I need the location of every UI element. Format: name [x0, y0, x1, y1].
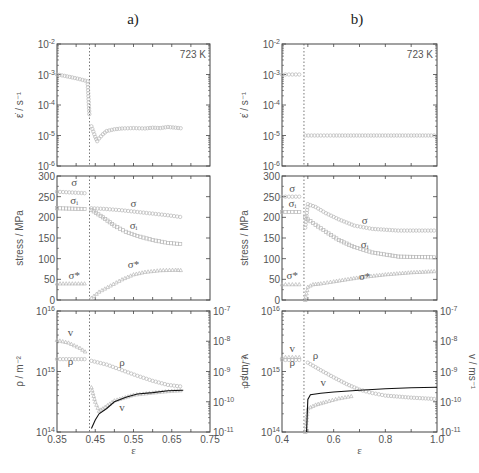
curve-label: ρ — [68, 355, 74, 367]
curve-label: v — [68, 326, 74, 338]
tick-label: 200 — [38, 212, 55, 223]
tick-label: 10-4 — [263, 99, 280, 111]
y-axis-label: stress / MPa — [239, 210, 250, 266]
tick-label: 10-8 — [213, 335, 230, 347]
figure: a)10-610-510-410-310-2ε̇ / s⁻¹723 K05010… — [0, 0, 479, 473]
curve-label: ρ — [313, 349, 319, 361]
tick-label: 0.8 — [378, 434, 392, 445]
tick-label: 0.6 — [327, 434, 341, 445]
plot-frame — [57, 44, 210, 166]
series-v-line- — [307, 387, 437, 432]
tick-label: 1016 — [36, 305, 55, 317]
tick-label: 10-3 — [38, 69, 55, 81]
subplot-strain-rate: 10-610-510-410-310-2ε̇ / s⁻¹723 K — [239, 38, 437, 172]
y-axis-label: ε̇ / s⁻¹ — [14, 91, 25, 118]
tick-label: 1.0 — [430, 434, 444, 445]
tick-label: 10-3 — [263, 69, 280, 81]
tick-label: 250 — [38, 192, 55, 203]
y-axis-label: ε̇ / s⁻¹ — [239, 91, 250, 118]
curve-label: v — [119, 401, 125, 413]
curve-label: σᵢ — [361, 238, 369, 250]
x-axis-label: ε — [357, 444, 362, 456]
curve-label: ρ — [290, 356, 296, 368]
curve-label: σ* — [68, 269, 79, 281]
y-axis-label: ρ / m⁻² — [239, 355, 250, 386]
tick-label: 250 — [263, 192, 280, 203]
subplot-density-velocity: 10141015101610-1110-1010-910-810-7ρ / m⁻… — [14, 305, 251, 456]
panel-title: b) — [351, 11, 364, 28]
tick-label: 200 — [263, 212, 280, 223]
tick-label: 1016 — [261, 305, 280, 317]
tick-label: 1015 — [261, 366, 280, 378]
tick-label: 50 — [269, 274, 281, 285]
series-- — [55, 73, 182, 143]
curve-label: σᵢ — [288, 197, 296, 209]
tick-label: 0.45 — [86, 434, 106, 445]
panel-b: b)10-610-510-410-310-2ε̇ / s⁻¹723 K05010… — [239, 11, 478, 456]
tick-label: 300 — [263, 171, 280, 182]
curve-label: σ* — [359, 270, 370, 282]
series--i — [280, 210, 435, 259]
tick-label: 10-9 — [440, 366, 457, 378]
curve-label: σᵢ — [70, 194, 78, 206]
tick-label: 150 — [263, 233, 280, 244]
tick-label: 50 — [44, 274, 56, 285]
tick-label: 10-10 — [440, 396, 461, 408]
tick-label: 10-2 — [38, 38, 55, 50]
subplot-stress: 050100150200250300stress / MPaσσᵢσ*σσᵢσ* — [239, 171, 437, 306]
tick-label: 300 — [38, 171, 55, 182]
tick-label: 10-5 — [38, 130, 55, 142]
tick-label: 0.4 — [275, 434, 289, 445]
curve-label: σ — [289, 182, 295, 194]
curve-label: σ* — [128, 258, 139, 270]
plot-frame — [57, 311, 210, 432]
panel-title: a) — [127, 11, 139, 28]
tick-label: 100 — [38, 254, 55, 265]
y-axis-label: ρ / m⁻² — [14, 355, 25, 386]
subplot-stress: 050100150200250300stress / MPaσσᵢσ*σσᵢσ* — [14, 171, 210, 306]
tick-label: 10-10 — [213, 396, 234, 408]
tick-label: 0.35 — [47, 434, 67, 445]
y-axis-label: stress / MPa — [14, 210, 25, 266]
x-axis-label: ε — [131, 444, 136, 456]
plot-frame — [57, 176, 210, 300]
subplot-strain-rate: 10-610-510-410-310-2ε̇ / s⁻¹723 K — [14, 38, 210, 172]
tick-label: 10-7 — [440, 305, 457, 317]
tick-label: 10-7 — [213, 305, 230, 317]
tick-label: 10-5 — [263, 130, 280, 142]
series--i — [55, 207, 181, 246]
curve-label: ρ — [119, 356, 125, 368]
tick-label: 0.75 — [200, 434, 220, 445]
tick-label: 10-4 — [38, 99, 55, 111]
subplot-density-velocity: 10141015101610-1110-1010-910-810-7ρ / m⁻… — [239, 305, 478, 456]
plot-frame — [282, 44, 437, 166]
tick-label: 150 — [38, 233, 55, 244]
tick-label: 10-8 — [440, 335, 457, 347]
y-axis-label-right: v / ms⁻¹ — [467, 354, 478, 390]
curve-label: σ — [71, 176, 77, 188]
tick-label: 10-9 — [213, 366, 230, 378]
curve-label: σ — [362, 214, 368, 226]
temperature-label: 723 K — [180, 49, 206, 60]
tick-label: 10-2 — [263, 38, 280, 50]
tick-label: 0.65 — [162, 434, 182, 445]
curve-label: v — [290, 342, 296, 354]
curve-label: v — [321, 376, 327, 388]
temperature-label: 723 K — [407, 49, 433, 60]
curve-label: σ* — [287, 269, 298, 281]
curve-label: σ — [131, 197, 137, 209]
curve-label: σᵢ — [130, 219, 138, 231]
plot-frame — [282, 311, 437, 432]
tick-label: 100 — [263, 254, 280, 265]
panel-a: a)10-610-510-410-310-2ε̇ / s⁻¹723 K05010… — [14, 11, 251, 456]
tick-label: 1015 — [36, 366, 55, 378]
